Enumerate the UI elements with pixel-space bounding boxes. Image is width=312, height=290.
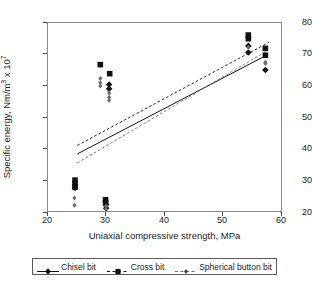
plot-area <box>47 22 282 212</box>
data-point <box>72 203 76 208</box>
fit-line-spherical-button-bit <box>77 51 267 163</box>
data-point <box>107 98 111 103</box>
legend-label-cross-bit: Cross bit <box>131 262 165 272</box>
chart-legend: Chisel bit Cross bit Spherical button bi… <box>32 258 277 275</box>
y-axis-label-sup-cubic: 3 <box>0 80 7 84</box>
figure-scatter-specific-energy: Specific energy, Nm/m3 x 107 80 70 60 50… <box>0 0 312 290</box>
small-diamond-marker-icon <box>175 262 197 271</box>
legend-label-chisel-bit: Chisel bit <box>61 262 96 272</box>
data-point <box>245 49 252 56</box>
legend-item-cross-bit[interactable]: Cross bit <box>107 262 165 272</box>
y-axis-label-main: Specific energy, Nm/m <box>1 84 12 179</box>
plot-canvas <box>48 23 283 213</box>
data-point <box>107 71 113 77</box>
x-tick-label-20: 20 <box>35 216 59 225</box>
data-point <box>98 84 102 89</box>
legend-label-spherical-button-bit: Spherical button bit <box>199 262 272 272</box>
data-point <box>263 52 269 58</box>
y-axis-label-mid: x 10 <box>1 59 12 80</box>
x-tick-label-30: 30 <box>93 216 117 225</box>
diamond-marker-icon <box>37 262 59 271</box>
legend-item-chisel-bit[interactable]: Chisel bit <box>37 262 96 272</box>
fit-line-cross-bit <box>77 42 269 145</box>
data-point <box>262 67 269 74</box>
x-tick-label-60: 60 <box>269 216 293 225</box>
data-point <box>72 195 76 200</box>
x-tick-label-40: 40 <box>152 216 176 225</box>
data-point <box>72 184 78 190</box>
data-point <box>97 62 103 68</box>
x-axis-label: Uniaxial compressive strength, MPa <box>47 230 282 241</box>
fit-line-chisel-bit <box>77 55 267 154</box>
legend-item-spherical-button-bit[interactable]: Spherical button bit <box>175 262 272 272</box>
y-axis-label: Specific energy, Nm/m3 x 107 <box>0 56 12 179</box>
x-tick-label-50: 50 <box>210 216 234 225</box>
data-point <box>263 46 269 52</box>
series-chisel-bit <box>72 43 269 212</box>
data-point <box>246 36 252 42</box>
square-marker-icon <box>107 262 129 271</box>
y-axis-label-wrapper: Specific energy, Nm/m3 x 107 <box>0 22 14 212</box>
y-axis-label-sup-exp: 7 <box>0 56 7 60</box>
